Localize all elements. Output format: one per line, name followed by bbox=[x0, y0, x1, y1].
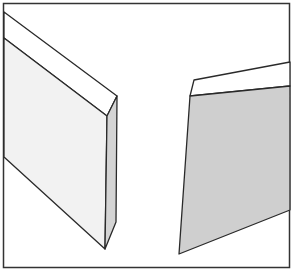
left-slab bbox=[4, 12, 117, 249]
slabs-diagram bbox=[0, 0, 292, 273]
left-slab-side bbox=[105, 96, 117, 249]
right-slab-face bbox=[179, 86, 290, 254]
diagram-canvas bbox=[0, 0, 292, 273]
right-slab bbox=[179, 62, 290, 254]
